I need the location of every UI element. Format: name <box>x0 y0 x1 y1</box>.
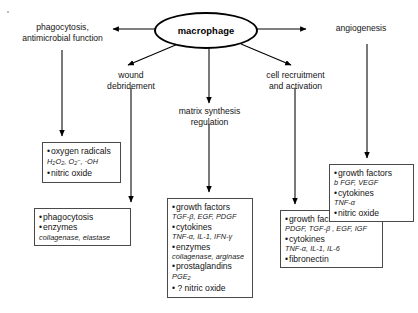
list-item-sub: TNF-α <box>334 198 409 207</box>
node-matrix-synthesis-line2: regulation <box>158 117 261 128</box>
list-item-sub: PDGF, TGF-β , EGF, IGF <box>285 224 378 233</box>
node-wound-debridement-line2: debridement <box>81 81 181 92</box>
list-item: prostaglandins <box>172 261 248 271</box>
list-item: enzymes <box>39 222 126 232</box>
node-wound-debridement: wound debridement <box>81 70 181 91</box>
diagram-canvas: macrophage phagocytosis, antimicrobial f… <box>0 0 418 313</box>
list-item: cytokines <box>172 222 248 232</box>
node-cell-recruitment: cell recruitment and activation <box>244 70 347 91</box>
matrix-synthesis-list: growth factors TGF-β, EGF, PDGF cytokine… <box>172 202 248 294</box>
list-item: fibronectin <box>285 254 378 264</box>
node-cell-recruitment-line1: cell recruitment <box>244 70 347 81</box>
list-item: nitric oxide <box>334 208 409 218</box>
hub-macrophage: macrophage <box>154 12 258 49</box>
angiogenesis-list: growth factors b FGF, VEGF cytokines TNF… <box>334 168 409 218</box>
list-item: growth factors <box>172 202 248 212</box>
hub-label: macrophage <box>178 25 235 36</box>
angiogenesis-box: growth factors b FGF, VEGF cytokines TNF… <box>329 164 414 222</box>
node-matrix-synthesis: matrix synthesis regulation <box>158 106 261 127</box>
node-angiogenesis-line1: angiogenesis <box>311 23 411 34</box>
node-phagocytosis-function-line1: phagocytosis, <box>0 22 125 33</box>
list-item-sub: TNF-α, IL-1, IFN-γ <box>172 232 248 241</box>
oxygen-radicals-list: oxygen radicals H2O2, O2−, ·OH nitric ox… <box>47 146 116 179</box>
list-item-sub: b FGF, VEGF <box>334 178 409 187</box>
list-item: enzymes <box>172 242 248 252</box>
edge-hub-to-cell-recruitment <box>241 44 291 65</box>
node-phagocytosis-function-line2: antimicrobial function <box>0 33 125 44</box>
node-phagocytosis-function: phagocytosis, antimicrobial function <box>0 22 125 43</box>
node-cell-recruitment-line2: and activation <box>244 81 347 92</box>
list-item-sub: collagenase, arginase <box>172 252 248 261</box>
list-item-sub: H2O2, O2−, ·OH <box>47 156 116 168</box>
phagocytosis-enzymes-box: phagocytosis enzymes collagenase, elasta… <box>34 208 131 246</box>
list-item: cytokines <box>334 188 409 198</box>
oxygen-radicals-box: oxygen radicals H2O2, O2−, ·OH nitric ox… <box>42 142 121 183</box>
phagocytosis-enzymes-list: phagocytosis enzymes collagenase, elasta… <box>39 212 126 242</box>
list-item-sub: TNF-α, IL-1, IL-6 <box>285 244 378 253</box>
list-item: nitric oxide <box>47 168 116 178</box>
list-item: growth factors <box>334 168 409 178</box>
edge-hub-to-wound-debridement <box>128 44 178 65</box>
list-item: oxygen radicals <box>47 146 116 156</box>
list-item: cytokines <box>285 234 378 244</box>
list-item: ? nitric oxide <box>172 283 248 293</box>
node-matrix-synthesis-line1: matrix synthesis <box>158 106 261 117</box>
matrix-synthesis-box: growth factors TGF-β, EGF, PDGF cytokine… <box>167 198 253 298</box>
scan-artifact-speck <box>7 11 9 13</box>
list-item-sub: PGE2 <box>172 272 248 283</box>
node-angiogenesis: angiogenesis <box>311 23 411 34</box>
list-item-sub: collagenase, elastase <box>39 233 126 242</box>
list-item: phagocytosis <box>39 212 126 222</box>
list-item-sub: TGF-β, EGF, PDGF <box>172 212 248 221</box>
node-wound-debridement-line1: wound <box>81 70 181 81</box>
